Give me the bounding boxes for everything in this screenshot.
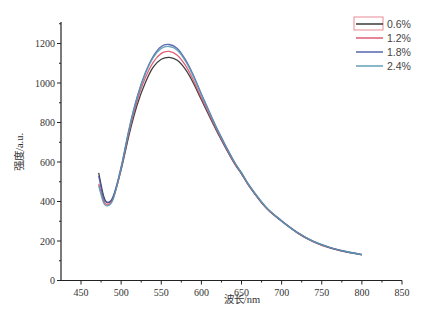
legend-label: 1.8% [387,46,411,58]
series-line-2-4pct [99,46,362,254]
legend-label: 0.6% [387,18,411,30]
axes: 0200400600800100012004505005506006507007… [35,22,410,298]
y-tick-label: 0 [50,275,55,286]
y-tick-label: 1200 [35,38,55,49]
x-tick-label: 850 [395,287,410,298]
legend-item: 0.6% [354,17,411,30]
x-tick-label: 700 [274,287,289,298]
legend-item: 1.2% [356,32,411,44]
y-axis-title: 强度/a.u. [13,133,25,171]
x-tick-label: 800 [354,287,369,298]
x-tick-label: 600 [194,287,209,298]
y-tick-label: 800 [40,117,55,128]
legend-label: 2.4% [387,60,411,72]
legend-label: 1.2% [387,32,411,44]
x-tick-label: 750 [314,287,329,298]
y-tick-label: 600 [40,157,55,168]
plot-lines [99,44,362,254]
y-tick-label: 400 [40,196,55,207]
y-tick-label: 1000 [35,78,55,89]
y-tick-label: 200 [40,236,55,247]
x-tick-label: 450 [74,287,89,298]
x-tick-label: 500 [114,287,129,298]
legend-item: 1.8% [356,46,411,58]
x-axis-title: 波长/nm [224,293,260,305]
legend-item: 2.4% [356,60,411,72]
series-line-1-8pct [99,44,362,254]
spectrum-chart: 0200400600800100012004505005506006507007… [0,0,425,328]
x-tick-label: 550 [154,287,169,298]
series-line-1-2pct [99,51,362,254]
legend: 0.6%1.2%1.8%2.4% [354,17,411,72]
